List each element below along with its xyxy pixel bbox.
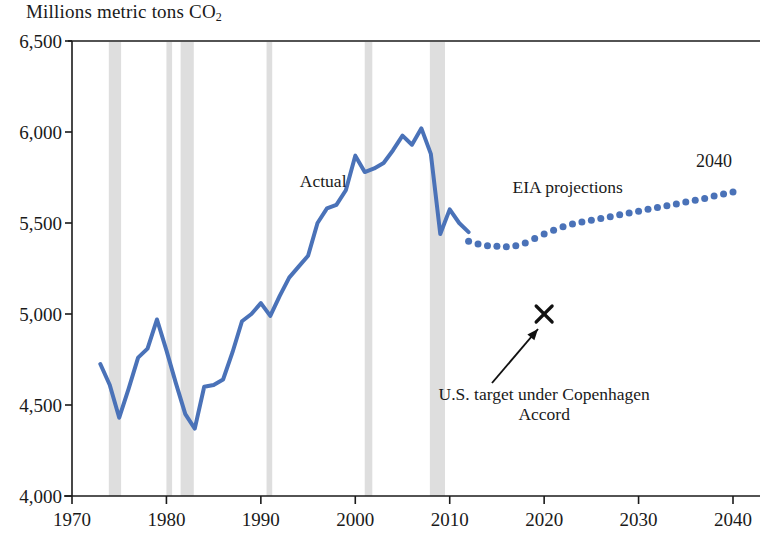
actual-label: Actual bbox=[300, 171, 347, 191]
projection-series-dots bbox=[465, 189, 736, 251]
projection-dot bbox=[626, 209, 633, 216]
projection-dot bbox=[541, 230, 548, 237]
y-axis-tick-label: 5,000 bbox=[0, 305, 62, 324]
recession-band bbox=[267, 42, 273, 496]
copenhagen-label-line1: U.S. target under Copenhagen bbox=[394, 384, 694, 404]
projection-dot bbox=[730, 189, 737, 196]
copenhagen-label-line2: Accord bbox=[394, 404, 694, 424]
y-axis-tick-label: 4,500 bbox=[0, 396, 62, 415]
projection-dot bbox=[663, 202, 670, 209]
x-axis-tick-label: 2030 bbox=[604, 510, 674, 529]
x-axis-tick-label: 2020 bbox=[509, 510, 579, 529]
recession-band bbox=[109, 42, 121, 496]
chart-figure: Millions metric tons CO2 4,0004,5005,000… bbox=[0, 0, 766, 543]
y-axis-tick-label: 5,500 bbox=[0, 214, 62, 233]
projection-dot bbox=[522, 240, 529, 247]
projection-dot bbox=[635, 208, 642, 215]
projection-dot bbox=[616, 211, 623, 218]
x-axis-tick-label: 2000 bbox=[320, 510, 390, 529]
y-axis-tick-label: 4,000 bbox=[0, 487, 62, 506]
projection-dot bbox=[607, 213, 614, 220]
y-axis-tick-label: 6,000 bbox=[0, 123, 62, 142]
projection-dot bbox=[645, 206, 652, 213]
projection-dot bbox=[701, 195, 708, 202]
projection-dot bbox=[465, 238, 472, 245]
projection-dot bbox=[560, 223, 567, 230]
projection-dot bbox=[512, 242, 519, 249]
recession-band bbox=[430, 42, 445, 496]
projection-dot bbox=[578, 219, 585, 226]
projection-dot bbox=[588, 217, 595, 224]
projection-dot bbox=[550, 227, 557, 234]
copenhagen-annotation-arrow bbox=[492, 329, 538, 383]
projection-dot bbox=[597, 215, 604, 222]
projection-dot bbox=[475, 240, 482, 247]
x-axis-tick-label: 1980 bbox=[131, 510, 201, 529]
copenhagen-target-marker bbox=[536, 306, 552, 322]
eia-label: EIA projections bbox=[513, 177, 623, 197]
projection-dot bbox=[711, 193, 718, 200]
projection-dot bbox=[569, 220, 576, 227]
projection-dot bbox=[720, 190, 727, 197]
projection-dot bbox=[692, 197, 699, 204]
x-axis-tick-label: 1970 bbox=[37, 510, 107, 529]
y-axis-tick-label: 6,500 bbox=[0, 32, 62, 51]
endpoint-year-label: 2040 bbox=[696, 151, 732, 172]
plot-area bbox=[0, 0, 766, 543]
projection-dot bbox=[673, 200, 680, 207]
projection-dot bbox=[682, 199, 689, 206]
projection-dot bbox=[531, 235, 538, 242]
projection-dot bbox=[493, 243, 500, 250]
recession-band bbox=[181, 42, 194, 496]
x-axis-tick-label: 2010 bbox=[415, 510, 485, 529]
recession-band bbox=[365, 42, 373, 496]
recession-band bbox=[166, 42, 172, 496]
projection-dot bbox=[503, 243, 510, 250]
projection-dot bbox=[484, 242, 491, 249]
projection-dot bbox=[654, 204, 661, 211]
x-axis-tick-label: 1990 bbox=[226, 510, 296, 529]
x-axis-tick-label: 2040 bbox=[698, 510, 766, 529]
